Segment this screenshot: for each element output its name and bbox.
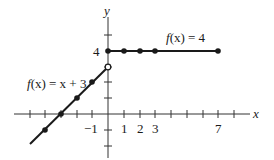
x-tick-label-3: 3 [152,122,159,135]
annotation-left-rest: (x) = x + 3 [31,76,87,91]
series-right-piece [105,48,221,54]
open-endpoint [105,64,111,70]
data-point [105,48,111,54]
data-point [152,48,158,54]
annotation-right-function: f(x) = 4 [166,31,205,44]
piecewise-function-graph: y x 4 −1 1 2 3 7 f(x) = x + 3 f(x) = 4 [0,0,274,160]
y-axis-label: y [104,4,110,17]
data-point [89,79,95,85]
x-tick-label-7: 7 [215,122,222,135]
data-point [121,48,127,54]
data-point [42,127,48,133]
data-point [137,48,143,54]
data-point [74,95,80,101]
x-tick-label-1: 1 [121,122,128,135]
data-point [215,48,221,54]
annotation-left-function: f(x) = x + 3 [27,77,86,90]
data-point [58,111,64,117]
annotation-right-rest: (x) = 4 [170,30,206,45]
y-tick-label-4: 4 [93,45,100,58]
x-tick-label-minus1: −1 [84,122,98,135]
x-tick-label-2: 2 [137,122,144,135]
x-axis-label: x [253,107,259,120]
